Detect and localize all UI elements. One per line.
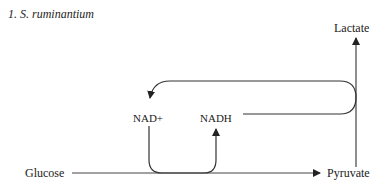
nadh-to-nad-loop-arrow bbox=[150, 81, 356, 114]
pyruvate-label: Pyruvate bbox=[327, 167, 370, 179]
glucose-label: Glucose bbox=[25, 167, 64, 179]
nadh-label: NADH bbox=[200, 112, 232, 124]
diagram-canvas: 1. S. ruminantium Lactate NAD+ NADH Gluc… bbox=[0, 0, 387, 190]
nad-to-nadh-curve-arrow bbox=[149, 126, 216, 173]
pathway-arrows bbox=[0, 0, 387, 190]
nad-plus-label: NAD+ bbox=[133, 112, 163, 124]
lactate-label: Lactate bbox=[334, 22, 369, 34]
